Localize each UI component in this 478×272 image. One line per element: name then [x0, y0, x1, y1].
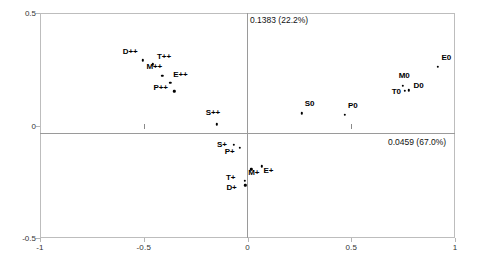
data-point-label: E+: [264, 166, 274, 175]
y-axis-tick: [36, 238, 40, 239]
x-axis-tick: [248, 238, 249, 242]
y-axis-tick: [36, 126, 40, 127]
data-point-label: D0: [414, 81, 424, 90]
x-axis-tick-label: -1: [36, 243, 44, 252]
y-axis-tick-label: 0.5: [25, 9, 36, 18]
y-axis-tick-label: 0: [32, 121, 36, 130]
scatter-plot-figure: -1-0.500.51 0.50-0.5 0.1383 (22.2%) 0.04…: [0, 0, 478, 272]
x-axis-tick: [144, 238, 145, 242]
data-point-label: M+: [248, 168, 259, 177]
x-axis-tick-label: 1: [453, 243, 458, 252]
data-point-label: S++: [206, 108, 220, 117]
y-zero-axis-line: [247, 13, 248, 238]
x-axis-tick: [455, 238, 456, 242]
y-axis-tick-label: -0.5: [22, 234, 36, 243]
y-axis-tick: [36, 13, 40, 14]
data-point-label: P0: [348, 101, 358, 110]
data-point-label: P++: [153, 83, 167, 92]
data-point-label: T0: [392, 87, 401, 96]
data-point-label: D+: [226, 183, 236, 192]
x-axis-tick-label: 0: [245, 243, 250, 252]
x-axis-tick-label: 0.5: [345, 243, 357, 252]
data-point-label: E++: [173, 70, 187, 79]
data-point-label: M0: [399, 71, 410, 80]
data-point-label: T+: [226, 173, 235, 182]
data-point-label: E0: [442, 53, 452, 62]
x-axis-tick: [351, 238, 352, 242]
x-zero-line-tick: [144, 124, 145, 129]
data-point-label: D++: [123, 47, 138, 56]
data-point-label: T++: [157, 52, 171, 61]
data-point-label: M++: [146, 62, 162, 71]
x-zero-line-tick: [351, 124, 352, 129]
data-point-label: S0: [305, 99, 315, 108]
data-point-label: P+: [225, 147, 235, 156]
x-axis-tick-label: -0.5: [136, 243, 151, 252]
vertical-axis-annotation: 0.1383 (22.2%): [250, 15, 308, 25]
horizontal-axis-annotation: 0.0459 (67.0%): [388, 137, 446, 147]
x-axis-tick: [40, 238, 41, 242]
